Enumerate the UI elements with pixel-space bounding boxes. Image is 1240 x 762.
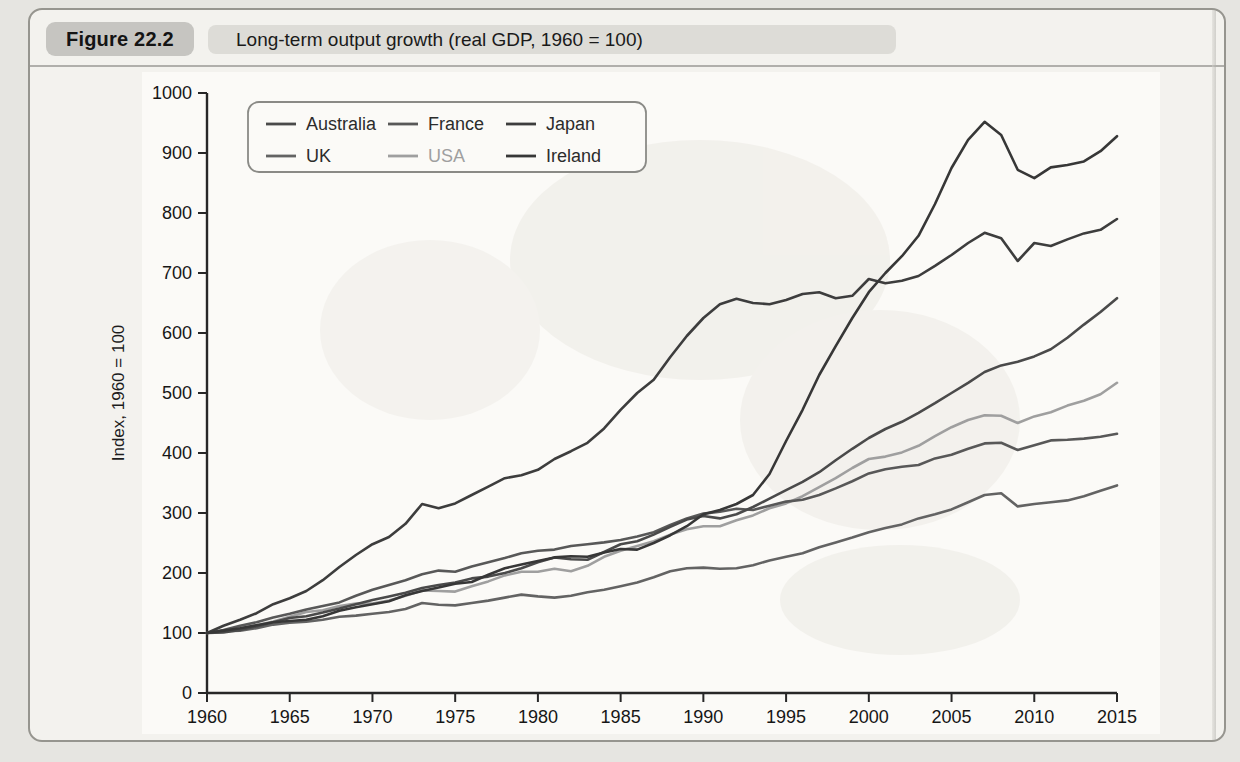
- y-tick-label: 300: [162, 503, 192, 523]
- legend-label-usa: USA: [428, 146, 465, 166]
- y-tick-label: 900: [162, 143, 192, 163]
- y-tick-label: 400: [162, 443, 192, 463]
- y-axis-title: Index, 1960 = 100: [109, 325, 128, 462]
- x-tick-label: 1990: [683, 707, 723, 727]
- y-tick-label: 1000: [152, 83, 192, 103]
- x-tick-label: 1965: [270, 707, 310, 727]
- x-tick-label: 2015: [1097, 707, 1137, 727]
- y-tick-label: 200: [162, 563, 192, 583]
- chart-svg: 0100200300400500600700800900100019601965…: [0, 0, 1240, 762]
- y-tick-label: 500: [162, 383, 192, 403]
- x-tick-label: 2005: [932, 707, 972, 727]
- x-tick-label: 1995: [766, 707, 806, 727]
- x-tick-label: 1980: [518, 707, 558, 727]
- x-tick-label: 1975: [435, 707, 475, 727]
- x-tick-label: 2010: [1014, 707, 1054, 727]
- page-background: { "figure": { "badge_label": "Figure 22.…: [0, 0, 1240, 762]
- legend-label-australia: Australia: [306, 114, 377, 134]
- y-tick-label: 800: [162, 203, 192, 223]
- y-tick-label: 100: [162, 623, 192, 643]
- background-watermark: [320, 140, 1020, 655]
- x-tick-label: 1970: [352, 707, 392, 727]
- legend-label-uk: UK: [306, 146, 331, 166]
- legend-label-japan: Japan: [546, 114, 595, 134]
- x-tick-label: 2000: [849, 707, 889, 727]
- y-tick-label: 700: [162, 263, 192, 283]
- legend-label-ireland: Ireland: [546, 146, 601, 166]
- x-tick-label: 1960: [187, 707, 227, 727]
- legend-label-france: France: [428, 114, 484, 134]
- y-tick-label: 0: [182, 683, 192, 703]
- x-tick-label: 1985: [601, 707, 641, 727]
- y-tick-label: 600: [162, 323, 192, 343]
